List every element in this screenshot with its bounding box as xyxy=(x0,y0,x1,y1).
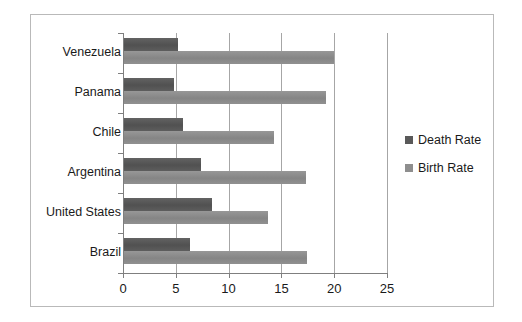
category-label-chile: Chile xyxy=(1,125,121,139)
bar-death-rate xyxy=(123,78,174,91)
bar-death-rate xyxy=(123,38,178,51)
bar-group xyxy=(123,193,387,233)
x-tick-label-10: 10 xyxy=(209,281,249,296)
bar-death-rate xyxy=(123,238,190,251)
legend-swatch-icon xyxy=(405,136,413,144)
x-tick-label-20: 20 xyxy=(314,281,354,296)
legend-swatch-icon xyxy=(405,164,413,172)
category-label-venezuela: Venezuela xyxy=(1,45,121,59)
chart-figure: 0510152025 BrazilUnited StatesArgentinaC… xyxy=(0,0,522,322)
bar-birth-rate xyxy=(123,51,334,64)
category-label-argentina: Argentina xyxy=(1,165,121,179)
bar-group xyxy=(123,233,387,273)
chart-legend: Death RateBirth Rate xyxy=(405,133,491,189)
x-tick-25 xyxy=(387,273,388,278)
bar-birth-rate xyxy=(123,131,274,144)
x-tick-20 xyxy=(334,273,335,278)
y-axis-category-labels: BrazilUnited StatesArgentinaChilePanamaV… xyxy=(0,33,121,273)
category-label-panama: Panama xyxy=(1,85,121,99)
gridline-25 xyxy=(387,33,388,273)
bar-death-rate xyxy=(123,198,212,211)
chart-frame: 0510152025 BrazilUnited StatesArgentinaC… xyxy=(30,14,494,307)
x-tick-label-0: 0 xyxy=(103,281,143,296)
y-axis-line xyxy=(123,33,124,273)
bar-group xyxy=(123,73,387,113)
bar-birth-rate xyxy=(123,211,268,224)
legend-item: Death Rate xyxy=(405,133,491,147)
category-label-united-states: United States xyxy=(1,205,121,219)
x-tick-label-15: 15 xyxy=(261,281,301,296)
legend-label: Death Rate xyxy=(418,133,481,147)
bar-group xyxy=(123,153,387,193)
bar-birth-rate xyxy=(123,91,326,104)
category-label-brazil: Brazil xyxy=(1,245,121,259)
x-tick-label-5: 5 xyxy=(156,281,196,296)
bar-death-rate xyxy=(123,118,183,131)
bar-group xyxy=(123,33,387,73)
bar-death-rate xyxy=(123,158,201,171)
bar-birth-rate xyxy=(123,171,306,184)
x-tick-5 xyxy=(176,273,177,278)
legend-label: Birth Rate xyxy=(418,161,474,175)
bar-birth-rate xyxy=(123,251,307,264)
x-tick-label-25: 25 xyxy=(367,281,407,296)
x-tick-10 xyxy=(229,273,230,278)
x-tick-0 xyxy=(123,273,124,278)
legend-item: Birth Rate xyxy=(405,161,491,175)
x-tick-15 xyxy=(281,273,282,278)
x-axis-line xyxy=(123,273,388,274)
plot-area xyxy=(123,33,387,273)
bar-group xyxy=(123,113,387,153)
